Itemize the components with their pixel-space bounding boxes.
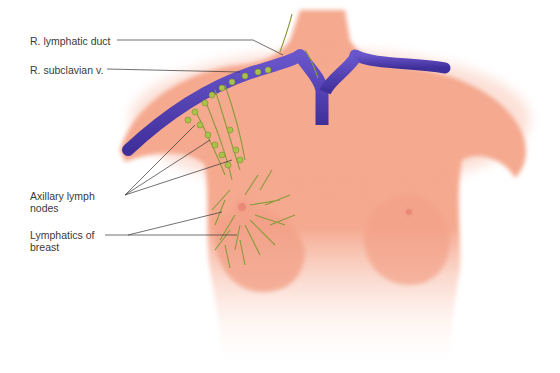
anatomy-illustration <box>0 0 560 373</box>
label-r-lymphatic-duct: R. lymphatic duct <box>30 35 111 47</box>
label-r-subclavian-v: R. subclavian v. <box>30 64 103 76</box>
label-lymphatics-of-breast: Lymphatics of breast <box>30 229 94 253</box>
label-axillary-lymph-nodes: Axillary lymph nodes <box>30 190 95 214</box>
torso <box>120 10 530 373</box>
